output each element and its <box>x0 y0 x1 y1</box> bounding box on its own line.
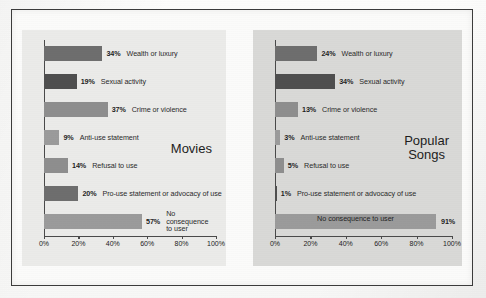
x-axis-tick-label: 100% <box>207 240 225 247</box>
bar-category-label: Crime or violence <box>132 105 187 114</box>
bar-row[interactable]: 24%Wealth or luxury <box>275 46 452 62</box>
scanned-page: 34%Wealth or luxury19%Sexual activity37%… <box>0 0 486 298</box>
bar[interactable] <box>44 130 59 146</box>
x-axis-tick-label: 80% <box>175 240 189 247</box>
x-axis-tick-label: 60% <box>374 240 388 247</box>
bar[interactable] <box>275 46 317 62</box>
bar-row[interactable]: 13%Crime or violence <box>275 102 452 118</box>
bar-value-label: 19% <box>81 77 95 86</box>
x-axis-tick-label: 80% <box>410 240 424 247</box>
chart-title-movies: Movies <box>171 142 212 156</box>
bar-row[interactable]: 19%Sexual activity <box>44 74 216 90</box>
chart-movies: 34%Wealth or luxury19%Sexual activity37%… <box>22 30 226 266</box>
x-axis-tick-label: 20% <box>71 240 85 247</box>
bar-category-label: Sexual activity <box>359 77 404 86</box>
x-axis-labels: 0%20%40%60%80%100% <box>275 237 452 251</box>
x-axis-tick-label: 60% <box>140 240 154 247</box>
bar-row[interactable]: 1%Pro-use statement or advocacy of use <box>275 186 452 202</box>
bar-value-label: 13% <box>302 105 316 114</box>
chart-songs: 24%Wealth or luxury34%Sexual activity13%… <box>253 30 462 266</box>
bar-value-label: 5% <box>288 161 298 170</box>
bar-value-label: 57% <box>146 217 160 226</box>
bar[interactable] <box>275 130 280 146</box>
x-axis-tick-label: 40% <box>339 240 353 247</box>
bar-category-label: Wealth or luxury <box>127 49 178 58</box>
bar-value-label: 34% <box>106 49 120 58</box>
x-axis-tick <box>452 236 453 239</box>
bar-category-label: Wealth or luxury <box>342 49 393 58</box>
bar-row[interactable]: 37%Crime or violence <box>44 102 216 118</box>
bar-value-label: 14% <box>72 161 86 170</box>
x-axis-labels: 0%20%40%60%80%100% <box>44 237 216 251</box>
chart-title-songs: PopularSongs <box>404 134 449 162</box>
bar-value-label: 34% <box>339 77 353 86</box>
bar-value-label: 1% <box>281 189 291 198</box>
bar[interactable] <box>44 158 68 174</box>
bar-category-label: Pro-use statement or advocacy of use <box>102 189 221 198</box>
bar-category-label: No consequence to user <box>275 214 436 223</box>
bar-category-label: Pro-use statement or advocacy of use <box>297 189 416 198</box>
bar-row[interactable]: No consequence to user91% <box>275 214 452 230</box>
bar-row[interactable]: 34%Wealth or luxury <box>44 46 216 62</box>
bar-row[interactable]: 20%Pro-use statement or advocacy of use <box>44 186 216 202</box>
bar-category-label: Refusal to use <box>92 161 137 170</box>
bar-category-label: Anti-use statement <box>301 133 360 142</box>
bar[interactable] <box>275 74 335 90</box>
bar[interactable] <box>44 74 77 90</box>
bar-category-label: Refusal to use <box>304 161 349 170</box>
bar[interactable] <box>275 158 284 174</box>
bar-category-label: Sexual activity <box>101 77 146 86</box>
bar-value-label: 3% <box>284 133 294 142</box>
x-axis-tick-label: 100% <box>443 240 461 247</box>
bar-value-label: 37% <box>112 105 126 114</box>
bar-row[interactable]: 57%No consequence to user <box>44 214 216 230</box>
x-axis-tick <box>216 236 217 239</box>
x-axis-tick-label: 0% <box>39 240 49 247</box>
bar-row[interactable]: 34%Sexual activity <box>275 74 452 90</box>
bar-category-label: Crime or violence <box>322 105 377 114</box>
bar[interactable] <box>275 102 298 118</box>
x-axis-tick-label: 40% <box>106 240 120 247</box>
bar[interactable]: No consequence to user <box>275 214 436 230</box>
bar[interactable] <box>44 214 142 230</box>
x-axis-tick-label: 0% <box>270 240 280 247</box>
bar-category-label: No consequence to user <box>166 210 212 233</box>
bar[interactable] <box>275 186 277 202</box>
plot-area: 34%Wealth or luxury19%Sexual activity37%… <box>44 40 216 236</box>
x-axis-tick-label: 20% <box>303 240 317 247</box>
bar-value-label: 9% <box>63 133 73 142</box>
bar[interactable] <box>44 186 78 202</box>
bar-rows: 34%Wealth or luxury19%Sexual activity37%… <box>44 40 216 236</box>
bar[interactable] <box>44 46 102 62</box>
bar-value-label: 20% <box>82 189 96 198</box>
bar-value-label: 91% <box>441 217 455 226</box>
bar-category-label: Anti-use statement <box>80 133 139 142</box>
bar[interactable] <box>44 102 108 118</box>
charts-container: 34%Wealth or luxury19%Sexual activity37%… <box>11 9 473 286</box>
bar-row[interactable]: 14%Refusal to use <box>44 158 216 174</box>
bar-value-label: 24% <box>321 49 335 58</box>
